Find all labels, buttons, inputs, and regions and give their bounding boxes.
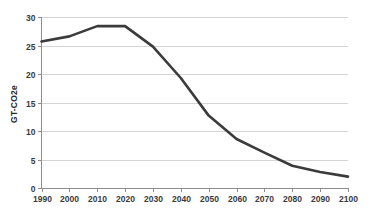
x-tick-label: 2020 [116, 194, 135, 204]
y-tick-label: 10 [26, 127, 36, 137]
y-axis-tick-labels: 051015202530 [26, 13, 36, 194]
x-tick-label: 2060 [228, 194, 247, 204]
y-tick-label: 15 [26, 99, 36, 109]
x-tick-label: 2080 [283, 194, 302, 204]
x-tick-label: 2040 [172, 194, 191, 204]
plot-area-background [41, 17, 348, 188]
x-tick-label: 2050 [200, 194, 219, 204]
y-tick-label: 5 [31, 156, 36, 166]
y-tick-label: 0 [31, 184, 36, 194]
chart-container: 051015202530 199020002010202020302040205… [0, 0, 371, 215]
y-tick-label: 20 [26, 70, 36, 80]
y-axis-ticks [38, 18, 42, 189]
x-tick-label: 2100 [339, 194, 358, 204]
line-chart: 051015202530 199020002010202020302040205… [0, 0, 371, 215]
x-tick-label: 1990 [33, 194, 52, 204]
y-axis-title: GT-CO2e [9, 85, 19, 123]
x-axis-tick-labels: 1990200020102020203020402050206020702080… [33, 194, 358, 204]
x-tick-label: 2070 [255, 194, 274, 204]
x-tick-label: 2000 [60, 194, 79, 204]
x-tick-label: 2090 [311, 194, 330, 204]
x-tick-label: 2010 [88, 194, 107, 204]
x-tick-label: 2030 [144, 194, 163, 204]
y-tick-label: 30 [26, 13, 36, 23]
y-tick-label: 25 [26, 42, 36, 52]
